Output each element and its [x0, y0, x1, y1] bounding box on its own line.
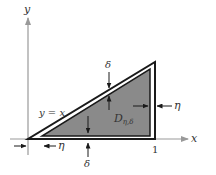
- x-tick-label: 1: [152, 144, 158, 155]
- line-label: y = x: [38, 107, 65, 118]
- eta-bottom-label: η: [58, 139, 65, 152]
- shaded-region: [42, 69, 150, 136]
- eta-right-label: η: [174, 99, 181, 112]
- x-axis-label: x: [191, 132, 198, 145]
- delta-top-label: δ: [105, 59, 111, 70]
- region-diagram: y x 1 y = x δ δ η η Dη,δ: [0, 0, 216, 175]
- region-label-main: D: [113, 112, 123, 125]
- y-axis-label: y: [23, 3, 31, 16]
- region-label-sub: η,δ: [123, 118, 134, 126]
- delta-bottom-label: δ: [84, 158, 90, 169]
